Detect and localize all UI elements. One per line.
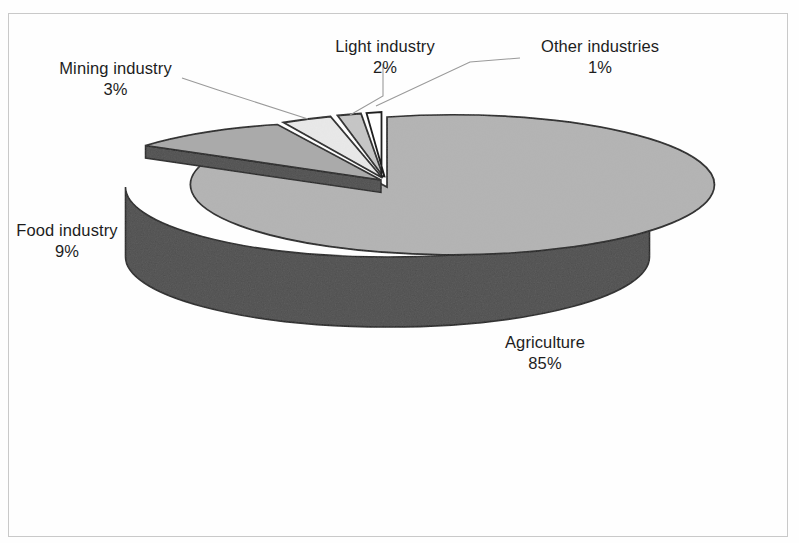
slice-label-food-industry-value: 9%	[2, 241, 132, 262]
slice-label-light-industry-name: Light industry	[335, 37, 435, 55]
slice-label-light-industry: Light industry 2%	[300, 36, 470, 78]
slice-label-food-industry-name: Food industry	[16, 221, 117, 239]
slice-label-agriculture: Agriculture 85%	[455, 332, 635, 374]
chart-page: Mining industry 3% Light industry 2% Oth…	[0, 0, 799, 543]
slice-label-light-industry-value: 2%	[300, 57, 470, 78]
slice-label-other-industries: Other industries 1%	[510, 36, 690, 78]
slice-label-mining-industry-value: 3%	[28, 79, 203, 100]
slice-label-other-industries-value: 1%	[510, 57, 690, 78]
slice-label-mining-industry: Mining industry 3%	[28, 58, 203, 100]
slice-label-agriculture-value: 85%	[455, 353, 635, 374]
slice-label-mining-industry-name: Mining industry	[59, 59, 171, 77]
slice-label-other-industries-name: Other industries	[541, 37, 659, 55]
slice-label-agriculture-name: Agriculture	[505, 333, 585, 351]
slice-label-food-industry: Food industry 9%	[2, 220, 132, 262]
